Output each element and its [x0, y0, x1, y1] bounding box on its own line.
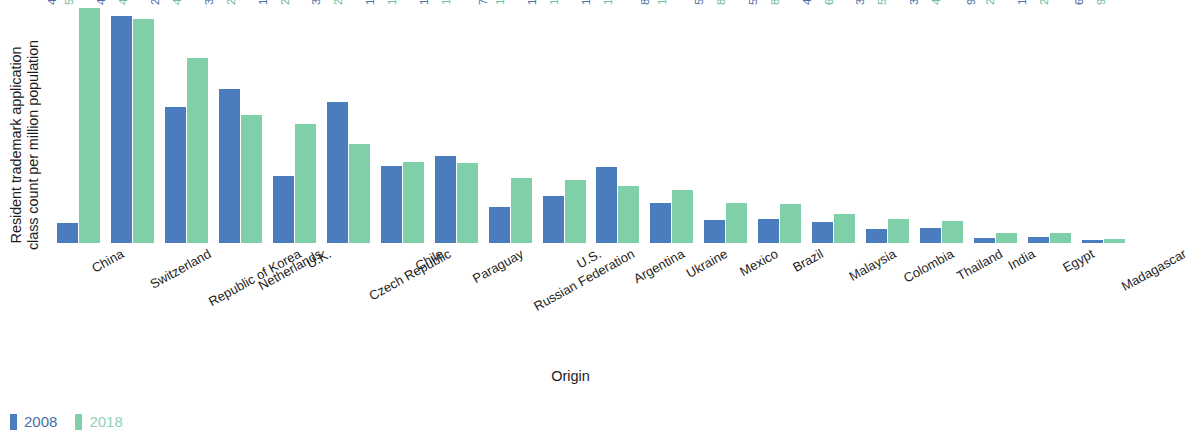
x-tick-label: Ukraine	[684, 246, 730, 281]
bar-rect: 3,347	[219, 89, 240, 243]
bar-2018: 841	[780, 8, 801, 243]
bar-value-label: 473	[930, 0, 942, 5]
bar-value-label: 1,450	[257, 0, 269, 5]
bar-2008: 446	[57, 8, 78, 243]
bar-rect: 330	[920, 228, 941, 243]
bar-value-label: 1,895	[418, 0, 430, 5]
bar-value-label: 3,347	[203, 0, 215, 5]
bar-rect: 522	[888, 219, 909, 243]
x-tick-label: China	[90, 246, 127, 276]
bar-value-label: 99	[966, 0, 978, 5]
bar-group: 3,0682,165	[322, 8, 376, 243]
bar-rect: 1,147	[672, 190, 693, 243]
bar-rect: 314	[866, 229, 887, 243]
bar-value-label: 519	[747, 0, 759, 5]
bar-value-label: 3,068	[310, 0, 322, 5]
bar-value-label: 4,936	[95, 0, 107, 5]
bar-2008: 4,936	[111, 8, 132, 243]
bar-group: 6793	[1076, 8, 1130, 243]
bar-2018: 1,147	[672, 8, 693, 243]
bar-rect: 1,450	[273, 176, 294, 243]
bar-value-label: 314	[854, 0, 866, 5]
bar-group: 3,3472,795	[214, 8, 268, 243]
bar-2018: 1,247	[618, 8, 639, 243]
bar-group: 1,0161,363	[537, 8, 591, 243]
bar-value-label: 2,795	[225, 0, 237, 5]
bar-value-label: 522	[876, 0, 888, 5]
bar-value-label: 4,869	[117, 0, 129, 5]
bar-value-label: 2,165	[332, 0, 344, 5]
bar-2018: 2,600	[295, 8, 316, 243]
x-axis-tick-labels: ChinaSwitzerlandRepublic of KoreaNetherl…	[52, 246, 1132, 346]
bar-2008: 1,450	[273, 8, 294, 243]
bar-2008: 1,895	[435, 8, 456, 243]
y-axis-title: Resident trademark application class cou…	[8, 15, 42, 275]
bar-value-label: 1,411	[495, 0, 507, 5]
bar-value-label: 220	[984, 0, 996, 5]
bar-rect: 790	[489, 207, 510, 243]
bar-group: 461630	[807, 8, 861, 243]
bar-rect: 630	[834, 214, 855, 243]
bar-value-label: 790	[477, 0, 489, 5]
bar-value-label: 1,757	[386, 0, 398, 5]
bar-2008: 99	[974, 8, 995, 243]
bar-rect: 4,869	[133, 19, 154, 243]
bar-2008: 128	[1028, 8, 1049, 243]
bar-value-label: 1,655	[580, 0, 592, 5]
bar-2018: 93	[1104, 8, 1125, 243]
bar-group: 330473	[914, 8, 968, 243]
bar-2018: 1,737	[457, 8, 478, 243]
legend-item-2008[interactable]: 2008	[10, 414, 57, 430]
bar-2018: 2,165	[349, 8, 370, 243]
x-tick-label: Paraguay	[470, 246, 526, 286]
bar-group: 7901,411	[483, 8, 537, 243]
x-axis-title: Origin	[0, 368, 1141, 384]
bar-rect: 4,027	[187, 58, 208, 243]
bar-group: 128215	[1022, 8, 1076, 243]
bar-group: 511867	[699, 8, 753, 243]
legend-label: 2008	[24, 414, 57, 430]
x-tick-label: Thailand	[954, 246, 1005, 283]
bar-2018: 2,795	[241, 8, 262, 243]
x-tick-label: Malaysia	[846, 246, 898, 284]
bar-2018: 522	[888, 8, 909, 243]
bar-value-label: 4,027	[171, 0, 183, 5]
bar-rect: 2,165	[349, 144, 370, 243]
bar-value-label: 1,016	[526, 0, 538, 5]
bar-2008: 511	[704, 8, 725, 243]
bar-2018: 1,363	[565, 8, 586, 243]
bar-group: 1,4502,600	[268, 8, 322, 243]
bar-rect: 4,936	[111, 16, 132, 243]
x-tick-label: Argentina	[631, 246, 687, 286]
legend-item-2018[interactable]: 2018	[75, 414, 122, 430]
bar-2018: 867	[726, 8, 747, 243]
legend-swatch-icon	[10, 414, 17, 430]
bar-value-label: 1,147	[656, 0, 668, 5]
bar-2008: 67	[1082, 8, 1103, 243]
bar-rect: 879	[650, 203, 671, 243]
legend-swatch-icon	[75, 414, 82, 430]
bar-value-label: 330	[908, 0, 920, 5]
bar-rect: 3,068	[327, 102, 348, 243]
bar-2018: 4,027	[187, 8, 208, 243]
bar-value-label: 1,737	[440, 0, 452, 5]
bar-rect: 1,684	[381, 166, 402, 243]
x-tick-label: Egypt	[1060, 246, 1096, 275]
bar-value-label: 93	[1095, 0, 1107, 5]
bar-2018: 473	[942, 8, 963, 243]
bar-rect: 1,895	[435, 156, 456, 243]
bar-value-label: 5,117	[63, 0, 75, 5]
bar-value-label: 461	[801, 0, 813, 5]
bar-2008: 879	[650, 8, 671, 243]
bar-2008: 314	[866, 8, 887, 243]
bar-2008: 461	[812, 8, 833, 243]
bar-value-label: 1,684	[364, 0, 376, 5]
bar-2018: 1,757	[403, 8, 424, 243]
bar-group: 99220	[968, 8, 1022, 243]
bar-2018: 630	[834, 8, 855, 243]
bar-2008: 1,016	[543, 8, 564, 243]
x-tick-label: Madagascar	[1118, 246, 1188, 294]
chart-legend: 20082018	[10, 414, 123, 430]
bar-group: 2,9544,027	[160, 8, 214, 243]
